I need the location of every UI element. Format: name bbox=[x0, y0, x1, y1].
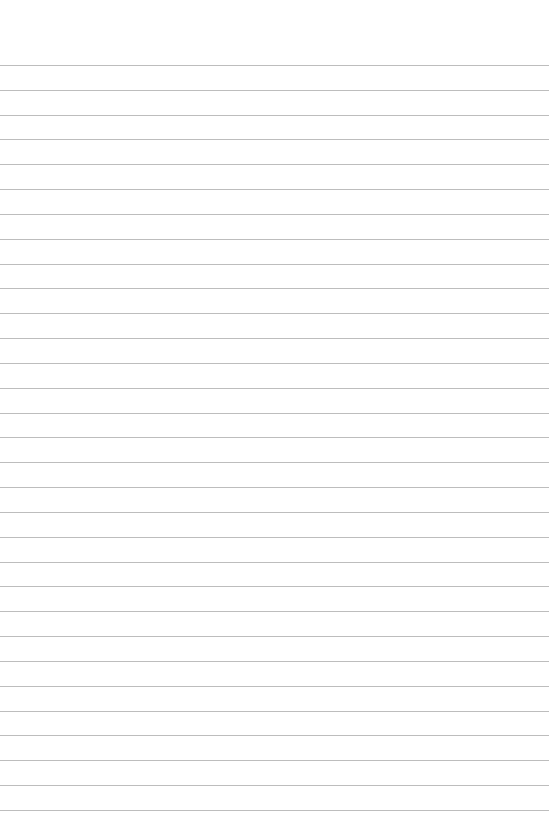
ruled-line bbox=[0, 115, 549, 116]
ruled-line bbox=[0, 239, 549, 240]
ruled-line bbox=[0, 512, 549, 513]
ruled-line bbox=[0, 686, 549, 687]
ruled-line bbox=[0, 462, 549, 463]
ruled-line bbox=[0, 586, 549, 587]
ruled-line bbox=[0, 437, 549, 438]
lined-paper-page bbox=[0, 0, 551, 840]
ruled-line bbox=[0, 711, 549, 712]
ruled-line bbox=[0, 760, 549, 761]
ruled-line bbox=[0, 636, 549, 637]
ruled-line bbox=[0, 785, 549, 786]
ruled-line bbox=[0, 363, 549, 364]
ruled-line bbox=[0, 189, 549, 190]
ruled-line bbox=[0, 413, 549, 414]
ruled-line bbox=[0, 388, 549, 389]
ruled-line bbox=[0, 735, 549, 736]
ruled-line bbox=[0, 288, 549, 289]
ruled-line bbox=[0, 611, 549, 612]
ruled-line bbox=[0, 487, 549, 488]
ruled-line bbox=[0, 661, 549, 662]
ruled-line bbox=[0, 164, 549, 165]
ruled-line bbox=[0, 214, 549, 215]
ruled-line bbox=[0, 338, 549, 339]
ruled-line bbox=[0, 65, 549, 66]
ruled-line bbox=[0, 810, 549, 811]
ruled-line bbox=[0, 562, 549, 563]
ruled-line bbox=[0, 313, 549, 314]
ruled-line bbox=[0, 139, 549, 140]
ruled-line bbox=[0, 537, 549, 538]
ruled-line bbox=[0, 90, 549, 91]
ruled-line bbox=[0, 264, 549, 265]
